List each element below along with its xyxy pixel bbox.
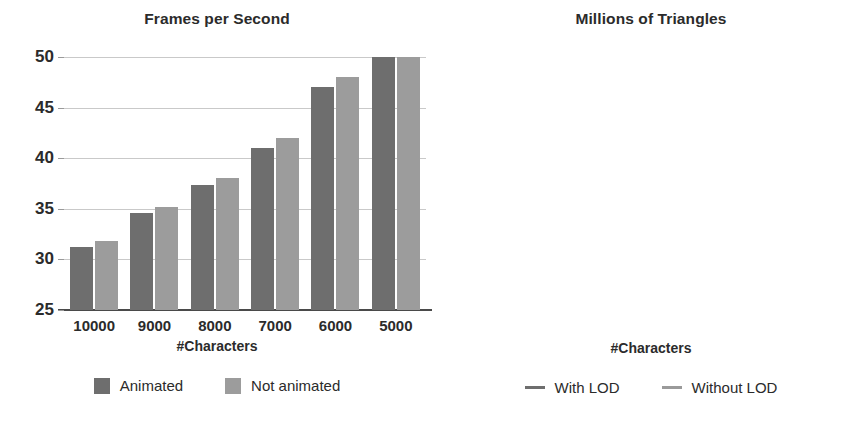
x-axis-tick-label: 8000 [198, 317, 231, 334]
legend-item-without-lod[interactable]: Without LOD [662, 379, 778, 396]
legend-dashed-line-icon [662, 386, 682, 389]
panel-millions-of-triangles: Millions of Triangles 010203040100009000… [434, 0, 868, 425]
bar-animated[interactable] [311, 87, 334, 310]
legend-solid-line-icon [525, 386, 545, 389]
legend-item-not-animated[interactable]: Not animated [225, 377, 340, 394]
chart-title-right: Millions of Triangles [434, 10, 868, 28]
y-axis-tick-label: 25 [35, 300, 54, 320]
legend-right: With LOD Without LOD [434, 379, 868, 396]
bar-animated[interactable] [130, 213, 153, 310]
bar-not-animated[interactable] [276, 138, 299, 310]
bar-animated[interactable] [372, 57, 395, 310]
legend-swatch-icon [225, 378, 241, 394]
legend-left: Animated Not animated [0, 377, 434, 394]
bar-group [185, 57, 245, 310]
legend-label: Not animated [251, 377, 340, 394]
legend-label: Without LOD [692, 379, 778, 396]
x-axis-label-right: #Characters [434, 340, 868, 356]
x-axis-label-left: #Characters [0, 338, 434, 354]
plot-area-left: 2530354045501000090008000700060005000 [64, 57, 426, 310]
legend-swatch-icon [94, 378, 110, 394]
bar-group [245, 57, 305, 310]
y-tick-mark [58, 310, 64, 311]
bar-group [305, 57, 365, 310]
bar-not-animated[interactable] [95, 241, 118, 310]
bar-group [64, 57, 124, 310]
y-axis-tick-label: 50 [35, 47, 54, 67]
legend-label: With LOD [555, 379, 620, 396]
legend-item-with-lod[interactable]: With LOD [525, 379, 620, 396]
legend-item-animated[interactable]: Animated [94, 377, 183, 394]
panel-frames-per-second: Frames per Second 2530354045501000090008… [0, 0, 434, 425]
figure-two-charts: Frames per Second 2530354045501000090008… [0, 0, 868, 425]
x-axis-tick-label: 10000 [73, 317, 115, 334]
y-axis-tick-label: 30 [35, 249, 54, 269]
bar-not-animated[interactable] [216, 178, 239, 310]
x-axis-tick-label: 7000 [258, 317, 291, 334]
bar-animated[interactable] [70, 247, 93, 310]
x-axis-tick-label: 9000 [138, 317, 171, 334]
y-axis-tick-label: 40 [35, 148, 54, 168]
y-axis-tick-label: 35 [35, 199, 54, 219]
bar-not-animated[interactable] [397, 57, 420, 310]
legend-label: Animated [120, 377, 183, 394]
y-axis-tick-label: 45 [35, 98, 54, 118]
bar-animated[interactable] [191, 185, 214, 310]
bar-group [124, 57, 184, 310]
x-axis-tick-label: 5000 [379, 317, 412, 334]
chart-title-left: Frames per Second [0, 10, 434, 28]
bar-group [366, 57, 426, 310]
x-axis-tick-label: 6000 [319, 317, 352, 334]
bar-not-animated[interactable] [155, 207, 178, 310]
bar-animated[interactable] [251, 148, 274, 310]
bar-not-animated[interactable] [336, 77, 359, 310]
